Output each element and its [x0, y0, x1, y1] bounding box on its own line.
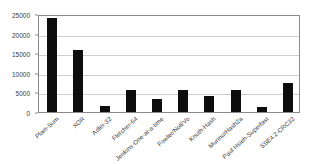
bar	[73, 50, 83, 112]
y-tick-label: 15000	[12, 51, 30, 58]
y-axis: 0500010000150002000025000	[0, 0, 34, 164]
x-tick-label: Paul Hsieh-Superfast	[220, 115, 269, 160]
bar	[126, 90, 136, 112]
y-tick-mark	[35, 54, 38, 55]
x-tick-label: Plain-Sum	[34, 115, 60, 140]
x-axis: Plain-SumXORAdler-32Fletcher-64Jenkins-O…	[38, 113, 300, 164]
y-tick-label: 25000	[12, 12, 30, 19]
bar	[47, 18, 57, 112]
y-tick-mark	[35, 15, 38, 16]
plot-area	[38, 15, 300, 113]
x-tick-label: Adler-32	[90, 115, 112, 136]
x-tick-label: XOR	[71, 115, 86, 129]
bar	[204, 96, 214, 112]
y-tick-mark	[35, 73, 38, 74]
bar	[100, 106, 110, 112]
y-tick-mark	[35, 93, 38, 94]
bar-chart: 0500010000150002000025000 Plain-SumXORAd…	[0, 0, 322, 164]
x-tick-label: Jenkins-One-at-a-time	[114, 115, 165, 162]
bar	[231, 90, 241, 112]
bar	[283, 83, 293, 112]
y-tick-label: 5000	[16, 90, 30, 97]
bar	[152, 99, 162, 112]
bar	[257, 107, 267, 112]
y-tick-label: 20000	[12, 31, 30, 38]
bars-container	[39, 16, 299, 112]
y-tick-label: 10000	[12, 70, 30, 77]
bar	[178, 90, 188, 112]
y-tick-mark	[35, 34, 38, 35]
y-tick-label: 0	[26, 110, 30, 117]
